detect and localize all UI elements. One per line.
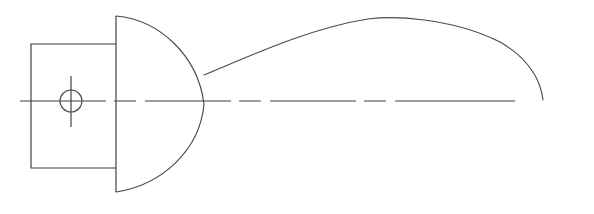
tapering-profile-curve bbox=[204, 18, 543, 100]
technical-drawing-canvas bbox=[0, 0, 594, 214]
rectangular-body-outline bbox=[31, 44, 116, 168]
drawing-svg-root bbox=[0, 0, 594, 214]
domed-end-cap-curve bbox=[116, 16, 204, 192]
